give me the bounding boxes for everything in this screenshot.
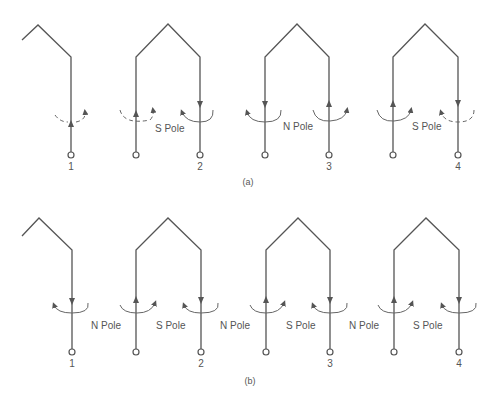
coil-3-b: 3 S Pole N Pole [250, 218, 379, 369]
current-up-arrow-icon [263, 296, 269, 303]
coil-2-a: 2 S Pole [120, 24, 213, 172]
terminal [263, 349, 269, 355]
terminal-number: 1 [68, 161, 74, 172]
terminal [326, 152, 332, 158]
coil-1-a: 1 [22, 25, 85, 172]
flux-arc-icon [378, 303, 412, 313]
flux-arc-icon [120, 303, 155, 313]
flux-arc-icon [55, 115, 68, 122]
flux-arc-icon [54, 303, 88, 313]
terminal [327, 349, 333, 355]
terminal-number: 4 [456, 358, 462, 369]
terminal-number: 2 [197, 161, 203, 172]
current-down-arrow-icon [198, 297, 204, 304]
current-up-arrow-icon [391, 296, 397, 303]
panel-b: 1 N Pole 2 S Pole N Pole 3 S Pole [22, 218, 476, 386]
terminal [133, 349, 139, 355]
flux-arc-icon [247, 110, 281, 122]
terminal [197, 152, 203, 158]
terminal-number: 3 [326, 161, 332, 172]
terminal [133, 152, 139, 158]
terminal [390, 152, 396, 158]
current-down-arrow-icon [455, 100, 461, 107]
coil-3-a: 3 N Pole [247, 24, 347, 172]
terminal [198, 349, 204, 355]
flux-arc-icon [182, 110, 213, 122]
terminal [456, 349, 462, 355]
current-up-arrow-icon [390, 100, 396, 107]
coil-1-b: 1 N Pole [22, 218, 121, 369]
terminal-number: 2 [198, 358, 204, 369]
current-up-arrow-icon [133, 110, 139, 117]
current-up-arrow-icon [133, 296, 139, 303]
flux-arc-icon [250, 303, 284, 313]
panel-caption: (a) [243, 177, 254, 187]
pole-label: N Pole [283, 121, 313, 132]
current-down-arrow-icon [327, 297, 333, 304]
pole-label: S Pole [155, 123, 185, 134]
flux-arc-icon [76, 112, 85, 122]
pole-label: N Pole [91, 320, 121, 331]
terminal [455, 152, 461, 158]
terminal [391, 349, 397, 355]
pole-label: S Pole [286, 320, 316, 331]
coil-4-a: 4 S Pole [377, 24, 474, 172]
terminal-number: 1 [69, 358, 75, 369]
pole-label: S Pole [156, 320, 186, 331]
current-up-arrow-icon [68, 120, 74, 127]
current-down-arrow-icon [197, 101, 203, 108]
flux-arc-icon [313, 110, 347, 121]
flux-arc-icon [377, 110, 411, 121]
panel-a: 1 2 S Pole 3 N Pole [22, 24, 474, 187]
terminal-number: 4 [455, 161, 461, 172]
coil-2-b: 2 S Pole N Pole [120, 218, 250, 369]
current-up-arrow-icon [326, 100, 332, 107]
pole-label: N Pole [220, 320, 250, 331]
coil-4-b: 4 S Pole [378, 218, 476, 369]
current-down-arrow-icon [456, 297, 462, 304]
terminal [68, 152, 74, 158]
pole-label: S Pole [413, 320, 443, 331]
pole-label: N Pole [349, 320, 379, 331]
terminal-number: 3 [327, 358, 333, 369]
current-down-arrow-icon [262, 101, 268, 108]
panel-caption: (b) [245, 376, 256, 386]
coil-pole-diagram: 1 2 S Pole 3 N Pole [0, 0, 497, 398]
current-down-arrow-icon [69, 298, 75, 305]
pole-label: S Pole [412, 121, 442, 132]
terminal [69, 349, 75, 355]
terminal [262, 152, 268, 158]
